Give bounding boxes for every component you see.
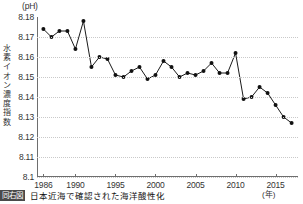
gridline (37, 137, 298, 138)
x-axis-tick-mark (43, 174, 44, 177)
x-axis-tick-mark (196, 174, 197, 177)
data-point-marker (65, 29, 69, 33)
y-axis-tick-label: 8.15 (18, 72, 37, 82)
data-point-marker (89, 65, 93, 69)
gridline (37, 97, 298, 98)
data-point-marker (162, 59, 166, 63)
y-axis-title-char: 水 (1, 44, 12, 53)
gridline (37, 77, 298, 78)
data-point-marker (170, 65, 174, 69)
data-point-marker (81, 19, 85, 23)
data-point-marker (129, 69, 133, 73)
caption-text: 日本近海で確認された海洋酸性化 (30, 189, 165, 201)
x-axis-unit-label: (年) (262, 188, 275, 199)
data-point-marker (266, 91, 270, 95)
data-point-marker (274, 103, 278, 107)
x-axis-tick-mark (276, 174, 277, 177)
y-axis-tick-label: 8.17 (18, 32, 37, 42)
y-axis-unit-label: (pH) (22, 1, 38, 11)
x-axis-tick-mark (236, 174, 237, 177)
y-axis-tick-label: 8.11 (19, 152, 37, 162)
data-point-marker (41, 27, 45, 31)
x-axis-tick-label: 2005 (186, 180, 204, 190)
caption-badge: 同右図 (0, 190, 25, 201)
y-axis-tick-label: 8.12 (18, 132, 37, 142)
y-axis-title-char: 素 (1, 53, 12, 62)
y-axis-title-char: オ (1, 72, 12, 81)
data-point-marker (137, 65, 141, 69)
y-axis-title-char: 指 (1, 108, 12, 117)
x-axis-tick-mark (155, 174, 156, 177)
figure-caption: 同右図 日本近海で確認された海洋酸性化 (0, 189, 165, 201)
data-point-marker (202, 69, 206, 73)
data-point-marker (258, 85, 262, 89)
y-axis-title-char: イ (1, 62, 12, 71)
gridline (37, 177, 298, 178)
x-axis-tick-label: 2010 (226, 180, 244, 190)
x-axis-tick-mark (115, 174, 116, 177)
y-axis-tick-label: 8.16 (18, 52, 37, 62)
gridline (37, 37, 298, 38)
y-axis-tick-label: 8.13 (18, 112, 37, 122)
data-point-marker (73, 47, 77, 51)
gridline (37, 117, 298, 118)
data-point-marker (186, 71, 190, 75)
gridline (37, 157, 298, 158)
plot-area: 8.188.178.168.158.148.138.128.118.119861… (37, 17, 298, 177)
data-point-marker (57, 29, 61, 33)
y-axis-title-char: 数 (1, 118, 12, 127)
data-point-marker (290, 121, 294, 125)
x-axis-tick-mark (75, 174, 76, 177)
y-axis-tick-label: 8.18 (18, 12, 37, 22)
y-axis-tick-label: 8.14 (18, 92, 37, 102)
data-point-marker (226, 71, 230, 75)
y-axis-title-char: ン (1, 81, 12, 90)
y-axis-title: 水素イオン濃度指数 (1, 44, 12, 127)
gridline (37, 57, 298, 58)
y-axis-title-char: 濃 (1, 90, 12, 99)
data-point-marker (218, 71, 222, 75)
chart-figure: (pH) 水素イオン濃度指数 8.188.178.168.158.148.138… (0, 0, 303, 204)
data-point-marker (210, 61, 214, 65)
data-point-marker (234, 51, 238, 55)
